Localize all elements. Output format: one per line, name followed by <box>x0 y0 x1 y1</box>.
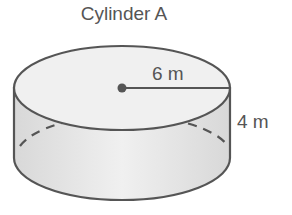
radius-label: 6 m <box>152 63 184 85</box>
center-point <box>118 84 127 93</box>
height-label: 4 m <box>237 111 269 133</box>
cylinder-figure <box>0 0 292 215</box>
